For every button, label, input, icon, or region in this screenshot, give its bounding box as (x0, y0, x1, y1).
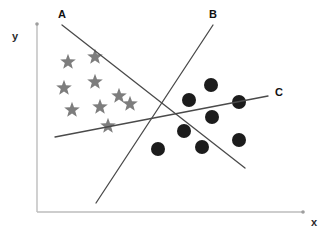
circle-data-point (195, 140, 209, 154)
star-data-point (87, 74, 103, 89)
star-data-point (92, 99, 108, 114)
circle-series-group (151, 78, 246, 156)
star-data-point (64, 102, 80, 117)
line-label-b: B (209, 8, 217, 20)
x-axis-label: x (311, 216, 318, 228)
decision-boundary-line-b (96, 25, 213, 203)
star-data-point (56, 80, 72, 95)
x-axis-arrow-cap (301, 210, 305, 214)
y-axis-label: y (12, 30, 19, 42)
star-data-point (111, 88, 127, 103)
plot-canvas: A B C x y (0, 0, 325, 233)
line-label-a: A (58, 8, 66, 20)
star-series-group (56, 49, 138, 133)
decision-boundary-group (55, 25, 268, 203)
circle-data-point (232, 133, 246, 147)
circle-data-point (151, 142, 165, 156)
circle-data-point (177, 124, 191, 138)
y-axis-arrow-cap (35, 22, 39, 26)
scatter-plot-figure: A B C x y (0, 0, 325, 233)
axes-group (35, 22, 305, 214)
star-data-point (122, 96, 138, 111)
star-data-point (60, 54, 76, 69)
circle-data-point (182, 93, 196, 107)
line-label-c: C (275, 86, 283, 98)
circle-data-point (204, 78, 218, 92)
circle-data-point (205, 110, 219, 124)
